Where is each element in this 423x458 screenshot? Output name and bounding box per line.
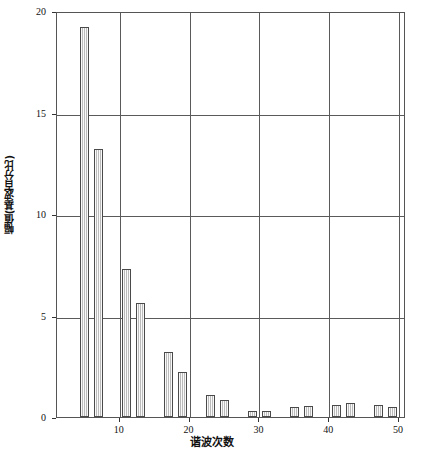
y-tick-mark-15 bbox=[52, 114, 56, 115]
bar-harmonic-37 bbox=[304, 406, 313, 417]
bar-harmonic-49 bbox=[388, 407, 397, 417]
y-tick-mark-0 bbox=[52, 418, 56, 419]
x-tick-mark-10 bbox=[119, 418, 120, 422]
bar-harmonic-41 bbox=[332, 405, 341, 417]
y-tick-mark-10 bbox=[52, 215, 56, 216]
bar-harmonic-5 bbox=[80, 27, 89, 417]
x-tick-mark-40 bbox=[328, 418, 329, 422]
gridline-x-30 bbox=[259, 13, 260, 417]
bar-harmonic-43 bbox=[346, 403, 355, 417]
x-tick-label-20: 20 bbox=[174, 425, 204, 435]
y-tick-mark-5 bbox=[52, 317, 56, 318]
x-tick-label-30: 30 bbox=[243, 425, 273, 435]
bar-harmonic-29 bbox=[248, 411, 257, 417]
gridline-y-10 bbox=[57, 216, 404, 217]
gridline-y-5 bbox=[57, 318, 404, 319]
bar-harmonic-7 bbox=[94, 149, 103, 417]
x-tick-label-10: 10 bbox=[104, 425, 134, 435]
x-tick-mark-20 bbox=[189, 418, 190, 422]
bar-harmonic-19 bbox=[178, 372, 187, 417]
y-tick-mark-20 bbox=[52, 12, 56, 13]
bar-harmonic-35 bbox=[290, 407, 299, 417]
x-tick-mark-30 bbox=[258, 418, 259, 422]
gridline-y-15 bbox=[57, 115, 404, 116]
bar-harmonic-23 bbox=[206, 395, 215, 417]
gridline-x-20 bbox=[190, 13, 191, 417]
x-tick-label-40: 40 bbox=[313, 425, 343, 435]
harmonic-spectrum-chart: 幅值(基波百分比) 谐波次数 05101520 1020304050 bbox=[0, 0, 423, 458]
y-axis-title: 幅值(基波百分比) bbox=[4, 155, 22, 234]
bar-harmonic-13 bbox=[136, 303, 145, 417]
bar-harmonic-11 bbox=[122, 269, 131, 417]
y-tick-label-0: 0 bbox=[20, 413, 46, 423]
bar-harmonic-31 bbox=[262, 411, 271, 417]
bar-harmonic-17 bbox=[164, 352, 173, 417]
y-tick-label-10: 10 bbox=[20, 210, 46, 220]
plot-area bbox=[56, 12, 405, 418]
y-tick-label-20: 20 bbox=[20, 7, 46, 17]
y-tick-label-15: 15 bbox=[20, 109, 46, 119]
bar-harmonic-25 bbox=[220, 400, 229, 417]
y-tick-label-5: 5 bbox=[20, 312, 46, 322]
gridline-x-40 bbox=[329, 13, 330, 417]
bar-harmonic-47 bbox=[374, 405, 383, 417]
x-tick-label-50: 50 bbox=[383, 425, 413, 435]
x-axis-title: 谐波次数 bbox=[0, 437, 423, 449]
x-tick-mark-50 bbox=[398, 418, 399, 422]
gridline-x-50 bbox=[399, 13, 400, 417]
gridline-x-10 bbox=[120, 13, 121, 417]
